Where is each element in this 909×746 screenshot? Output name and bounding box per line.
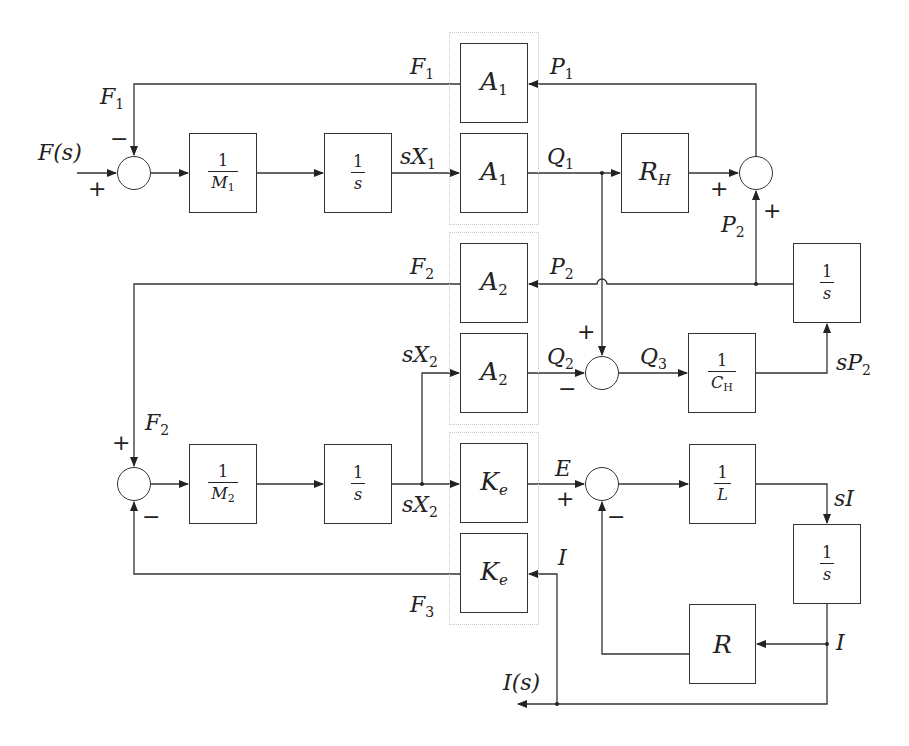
sign-sum2-bottom: + — [763, 200, 781, 222]
label-f1-left: F1 — [100, 86, 124, 111]
block-ke-feedback: Ke — [460, 533, 528, 613]
summing-junction-1 — [117, 156, 151, 190]
block-inverse-m2: 1M2 — [189, 444, 257, 524]
sign-sum1-left: + — [88, 178, 106, 200]
summing-junction-3 — [585, 356, 619, 390]
label-q2: Q2 — [547, 346, 574, 371]
block-inverse-ch: 1CH — [688, 333, 756, 413]
block-integrator-2: 1s — [324, 444, 392, 524]
label-sx2-top: sX2 — [402, 344, 438, 369]
block-inverse-l: 1L — [689, 444, 756, 524]
sign-sum4-bottom: − — [607, 506, 625, 528]
label-i-r: I — [836, 632, 845, 654]
block-r: R — [689, 604, 756, 684]
sign-sum1-top: − — [110, 128, 128, 150]
summing-junction-2 — [739, 156, 773, 190]
sign-sum3-top: + — [577, 321, 595, 343]
block-ke-forward: Ke — [460, 443, 528, 523]
block-integrator-1: 1s — [324, 133, 392, 213]
block-integrator-p2: 1s — [793, 243, 861, 323]
block-rh: RH — [621, 133, 689, 213]
label-f2-left: F2 — [145, 412, 169, 437]
block-a2-feedback: A2 — [460, 243, 528, 323]
label-p2-vertical: P2 — [721, 214, 745, 239]
label-f1-top: F1 — [410, 56, 434, 81]
block-inverse-m1: 1M1 — [189, 133, 257, 213]
label-i-s: I(s) — [503, 672, 540, 694]
label-q1: Q1 — [547, 146, 574, 171]
block-integrator-i: 1s — [793, 524, 861, 604]
label-sx1: sX1 — [400, 146, 436, 171]
label-f2-top: F2 — [410, 256, 434, 281]
block-a1-forward: A1 — [460, 133, 528, 213]
sign-sum5-bottom: − — [142, 506, 160, 528]
label-p1: P1 — [550, 56, 574, 81]
sign-sum5-top: + — [112, 432, 130, 454]
block-a1-feedback: A1 — [460, 43, 528, 123]
label-e: E — [555, 458, 571, 480]
label-f3: F3 — [410, 594, 434, 619]
summing-junction-4 — [585, 467, 619, 501]
label-si: sI — [834, 488, 854, 510]
sign-sum2-left: + — [710, 178, 728, 200]
label-q3: Q3 — [640, 346, 667, 371]
label-f-s: F(s) — [38, 142, 82, 164]
block-diagram: 1M1 1s A1 A1 RH A2 A2 1s 1CH 1M2 1s Ke K… — [0, 0, 909, 746]
label-i-ke: I — [558, 547, 567, 569]
block-a2-forward: A2 — [460, 333, 528, 413]
label-sp2: sP2 — [836, 352, 871, 377]
summing-junction-5 — [117, 467, 151, 501]
sign-sum3-left: − — [558, 378, 576, 400]
label-p2-line: P2 — [550, 256, 574, 281]
label-sx2-bottom: sX2 — [402, 494, 438, 519]
sign-sum4-left: + — [556, 488, 574, 510]
